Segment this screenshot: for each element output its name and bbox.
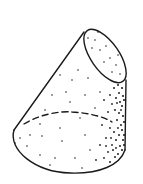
truncated-cone-figure: oblique truncated cone [0,0,143,184]
cone-drawing [0,0,143,184]
left-edge [14,32,84,130]
base-back-arc [24,112,112,124]
body-stipple [14,69,125,169]
top-face-ellipse [76,23,134,90]
right-edge [125,80,126,150]
top-face-stipple [87,31,121,75]
